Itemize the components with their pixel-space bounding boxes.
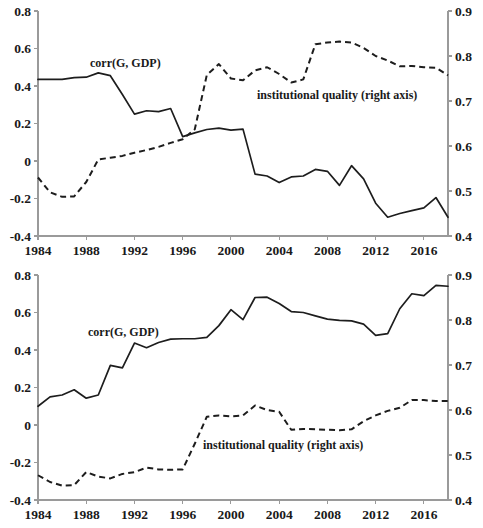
series-annotation-institutional-quality: institutional quality (right axis)	[203, 438, 363, 452]
x-axis-tick-label: 2016	[410, 243, 437, 258]
left-axis-tick-label: 0.4	[14, 79, 31, 94]
chart-svg: -0.4-0.200.20.40.60.80.40.50.60.70.80.91…	[0, 264, 483, 528]
x-axis-tick-label: 2016	[410, 507, 437, 522]
right-axis-tick-label: 0.7	[455, 358, 472, 373]
x-axis-tick-label: 2008	[314, 507, 341, 522]
x-axis-tick-label: 2012	[362, 507, 389, 522]
left-axis-tick-label: -0.4	[10, 493, 32, 508]
x-axis-tick-label: 1996	[169, 243, 196, 258]
x-axis-tick-label: 2004	[266, 507, 293, 522]
left-axis-tick-label: 0.6	[14, 41, 31, 56]
left-axis-tick-label: 0.4	[14, 343, 31, 358]
left-axis-tick-label: -0.2	[10, 455, 32, 470]
right-axis-tick-label: 0.9	[455, 4, 472, 19]
x-axis-tick-label: 1996	[169, 507, 196, 522]
left-axis-tick-label: -0.2	[10, 191, 32, 206]
x-axis-tick-label: 1992	[121, 243, 148, 258]
series-line-corr-g-gdp	[38, 285, 448, 406]
x-axis-tick-label: 2008	[314, 243, 341, 258]
left-axis-tick-label: 0	[24, 154, 31, 169]
chart-panel-top: -0.4-0.200.20.40.60.80.40.50.60.70.80.91…	[0, 0, 483, 264]
x-axis-tick-label: 2012	[362, 243, 389, 258]
right-axis-tick-label: 0.8	[455, 49, 472, 64]
x-axis-tick-label: 1988	[73, 243, 100, 258]
x-axis-tick-label: 1984	[25, 243, 52, 258]
right-axis-tick-label: 0.4	[455, 229, 472, 244]
right-axis-tick-label: 0.4	[455, 493, 472, 508]
right-axis-tick-label: 0.7	[455, 94, 472, 109]
axes-group: -0.4-0.200.20.40.60.80.40.50.60.70.80.91…	[10, 4, 473, 259]
right-axis-tick-label: 0.9	[455, 268, 472, 283]
left-axis-tick-label: 0.8	[14, 4, 31, 19]
right-axis-tick-label: 0.6	[455, 139, 472, 154]
right-axis-tick-label: 0.6	[455, 403, 472, 418]
x-axis-tick-label: 2000	[217, 243, 244, 258]
left-axis-tick-label: 0.6	[14, 305, 31, 320]
series-annotation-corr-g-gdp: corr(G, GDP)	[88, 325, 159, 339]
left-axis-tick-label: 0.2	[14, 116, 31, 131]
x-axis-tick-label: 2004	[266, 243, 293, 258]
series-annotation-institutional-quality: institutional quality (right axis)	[257, 88, 417, 102]
x-axis-tick-label: 1988	[73, 507, 100, 522]
right-axis-tick-label: 0.8	[455, 313, 472, 328]
x-axis-tick-label: 1992	[121, 507, 148, 522]
x-axis-tick-label: 1984	[25, 507, 52, 522]
x-axis-tick-label: 2000	[217, 507, 244, 522]
left-axis-tick-label: 0	[24, 418, 31, 433]
left-axis-tick-label: 0.8	[14, 268, 31, 283]
left-axis-tick-label: 0.2	[14, 380, 31, 395]
left-axis-tick-label: -0.4	[10, 229, 32, 244]
right-axis-tick-label: 0.5	[455, 184, 472, 199]
series-annotation-corr-g-gdp: corr(G, GDP)	[90, 56, 161, 70]
chart-panel-bottom: -0.4-0.200.20.40.60.80.40.50.60.70.80.91…	[0, 264, 483, 528]
chart-svg: -0.4-0.200.20.40.60.80.40.50.60.70.80.91…	[0, 0, 483, 264]
right-axis-tick-label: 0.5	[455, 448, 472, 463]
